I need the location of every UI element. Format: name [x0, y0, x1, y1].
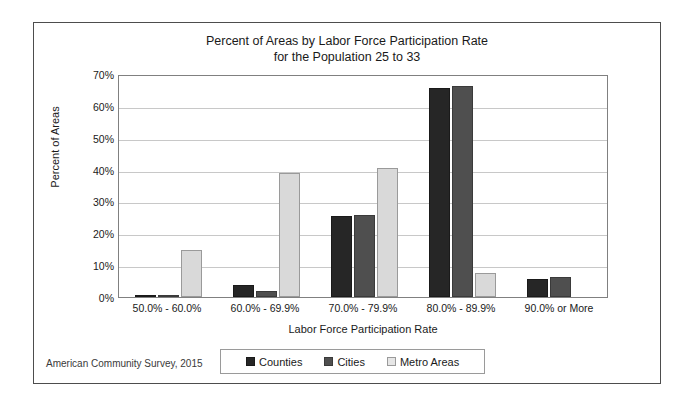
legend-swatch-icon [387, 357, 396, 366]
legend-entry-counties[interactable]: Counties [246, 356, 302, 368]
bar-metro-areas [377, 168, 398, 297]
legend-entry-cities[interactable]: Cities [324, 356, 365, 368]
y-axis-tick-label: 70% [78, 69, 114, 81]
legend-entry-metro-areas[interactable]: Metro Areas [387, 356, 459, 368]
y-axis-tick-labels: 0%10%20%30%40%50%60%70% [72, 75, 114, 298]
bar-group [217, 76, 315, 297]
legend-label: Cities [337, 356, 365, 368]
bar-metro-areas [279, 173, 300, 297]
x-axis-tick-label: 80.0% - 89.9% [412, 302, 510, 314]
bar-group [511, 76, 609, 297]
bar-cities [354, 215, 375, 297]
bar-group [413, 76, 511, 297]
legend-label: Counties [259, 356, 302, 368]
y-axis-tick-label: 50% [78, 133, 114, 145]
y-axis-tick-label: 30% [78, 196, 114, 208]
bar-group [119, 76, 217, 297]
plot-area [118, 75, 608, 298]
bar-cities [158, 295, 179, 297]
bar-counties [233, 285, 254, 297]
chart-figure-frame: Percent of Areas by Labor Force Particip… [33, 22, 661, 384]
bar-counties [527, 279, 548, 297]
bar-metro-areas [475, 273, 496, 297]
chart-title-line-2: for the Population 25 to 33 [34, 49, 660, 65]
x-axis-title: Labor Force Participation Rate [118, 323, 608, 335]
x-axis-tick-label: 90.0% or More [510, 302, 608, 314]
bar-counties [135, 295, 156, 297]
y-axis-title: Percent of Areas [49, 82, 61, 212]
x-axis-tick-label: 70.0% - 79.9% [314, 302, 412, 314]
chart-title-line-1: Percent of Areas by Labor Force Particip… [34, 33, 660, 49]
bar-counties [429, 88, 450, 297]
y-axis-tick-label: 40% [78, 165, 114, 177]
x-axis-tick-labels: 50.0% - 60.0%60.0% - 69.9%70.0% - 79.9%8… [118, 302, 608, 318]
legend-label: Metro Areas [400, 356, 459, 368]
source-note: American Community Survey, 2015 [46, 358, 203, 369]
bars-layer [119, 76, 607, 297]
bar-cities [550, 277, 571, 297]
bar-counties [331, 216, 352, 297]
bar-cities [256, 291, 277, 297]
legend-swatch-icon [246, 357, 255, 366]
y-axis-tick-label: 0% [78, 292, 114, 304]
x-axis-tick-label: 50.0% - 60.0% [118, 302, 216, 314]
legend-swatch-icon [324, 357, 333, 366]
bar-cities [452, 86, 473, 297]
y-axis-tick-label: 20% [78, 228, 114, 240]
bar-metro-areas [181, 250, 202, 297]
x-axis-tick-label: 60.0% - 69.9% [216, 302, 314, 314]
bar-group [315, 76, 413, 297]
chart-legend: CountiesCitiesMetro Areas [220, 349, 485, 374]
chart-title: Percent of Areas by Labor Force Particip… [34, 33, 660, 65]
y-axis-tick-label: 60% [78, 101, 114, 113]
y-axis-tick-label: 10% [78, 260, 114, 272]
